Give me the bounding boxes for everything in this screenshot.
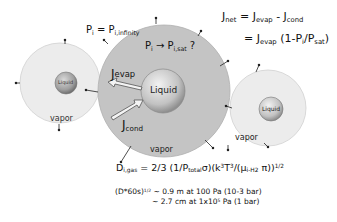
eq-part: (1-P	[277, 32, 302, 45]
eq-sub: total	[188, 167, 201, 173]
eq-part: π))	[259, 162, 275, 173]
jnet-equation-line2: = Jevap (1-Pi/Psat)	[244, 32, 329, 46]
diffusion-length-line1: (D*60s)1/2 ~ 0.9 m at 100 Pa (10-3 bar)	[115, 187, 262, 196]
j-sub-cond: cond	[126, 124, 143, 133]
diffusion-equation: Di,gas = 2/3 (1/Ptotalσ)(k3T3/(μi-H2 π))…	[116, 162, 284, 173]
eq-sub: net	[225, 16, 236, 24]
j-cond-label: Jcond	[122, 118, 143, 133]
center-vapor-label: vapor	[150, 145, 173, 154]
eq-part: ~ 0.9 m at 100 Pa (10-3 bar)	[151, 187, 262, 196]
right-vapor-label: vapor	[235, 133, 258, 142]
center-liquid-label: Liquid	[150, 85, 177, 95]
p-eq-mid: = P	[94, 24, 115, 35]
left-liquid-label: Liquid	[58, 79, 73, 85]
eq-part: - J	[273, 10, 287, 23]
eq-part: (D*60s)	[115, 187, 144, 196]
pressure-equilibrium-label: Pi = Pi,infinity	[86, 24, 140, 36]
eq-part: = J	[236, 10, 255, 23]
eq-part: ~ 2.7 cm at 1x10	[152, 197, 217, 206]
eq-sub: evap	[256, 16, 273, 24]
eq-part: σ)(k	[202, 162, 221, 173]
eq-sup: 1/2	[275, 163, 284, 169]
eq-part: /P	[304, 32, 314, 45]
eq-sub: i-H2	[247, 167, 259, 173]
j-sub-evap: evap	[115, 69, 136, 79]
question-mark: ?	[187, 40, 196, 51]
diffusion-length-line2: ~ 2.7 cm at 1x105 Pa (1 bar)	[152, 197, 259, 206]
eq-sub: i,gas	[123, 167, 137, 173]
j-evap-label: Jevap	[111, 67, 135, 81]
eq-part: /(μ	[234, 162, 247, 173]
eq-part: = 2/3 (1/P	[137, 162, 188, 173]
eq-part: Pa (1 bar)	[220, 197, 259, 206]
p-sub-infinity: i,infinity	[115, 29, 140, 36]
eq-sup: 1/2	[144, 188, 151, 193]
eq-sub: cond	[287, 16, 304, 24]
eq-sub: sat	[314, 38, 324, 46]
eq-part: = J	[244, 32, 260, 45]
eq-part: )	[325, 32, 329, 45]
jnet-equation-line1: Jnet = Jevap - Jcond	[222, 10, 303, 24]
eq-sub: evap	[260, 38, 277, 46]
pressure-saturation-label: Pi → Pi,sat ?	[145, 40, 195, 52]
right-liquid-label: Liquid	[262, 105, 280, 112]
left-vapor-label: vapor	[50, 114, 73, 123]
p-arrow-mid: → P	[153, 40, 174, 51]
p-sub-sat: i,sat	[174, 45, 187, 52]
